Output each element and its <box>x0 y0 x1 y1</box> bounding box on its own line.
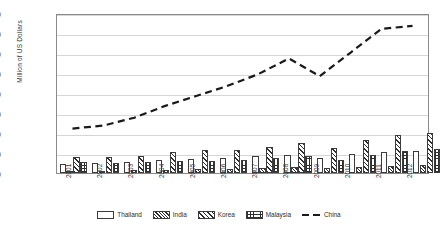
x-tick-cell: 2004 <box>149 176 180 202</box>
x-axis-tick-labels: 2001200220032004200520062007200820092010… <box>56 176 429 202</box>
x-tick-cell: 2003 <box>118 176 149 202</box>
bar-groups <box>57 15 428 173</box>
bar-india <box>259 168 265 173</box>
x-tick-label: 2006 <box>220 164 227 178</box>
y-tick-label: 160,000 <box>0 11 1 18</box>
x-tick-label: 2012 <box>406 164 413 178</box>
bar-group <box>186 15 218 173</box>
x-tick-cell: 2011 <box>367 176 398 202</box>
x-tick-label: 2010 <box>344 164 351 178</box>
y-tick-label: 20,000 <box>0 151 1 158</box>
x-tick-label: 2001 <box>64 164 71 178</box>
x-tick-cell: 2006 <box>211 176 242 202</box>
x-tick-cell: 2012 <box>398 176 429 202</box>
y-tick-label: 100,000 <box>0 71 1 78</box>
bar-korea <box>363 140 369 173</box>
legend-label: Korea <box>218 211 235 218</box>
x-tick-cell: 2005 <box>180 176 211 202</box>
bar-group <box>57 15 89 173</box>
y-tick-label: 60,000 <box>0 111 1 118</box>
bar-india <box>324 168 330 173</box>
bar-group <box>89 15 121 173</box>
bar-malaysia <box>305 156 311 173</box>
legend-item-korea[interactable]: Korea <box>198 211 235 219</box>
bar-malaysia <box>113 163 119 173</box>
y-tick-label: 40,000 <box>0 131 1 138</box>
x-tick-label: 2008 <box>282 164 289 178</box>
x-tick-cell: 2007 <box>242 176 273 202</box>
y-axis-title: Million of US Dollars <box>16 0 23 107</box>
bar-korea <box>138 156 144 173</box>
bar-malaysia <box>145 162 151 173</box>
x-tick-label: 2004 <box>158 164 165 178</box>
y-tick-label: 0 <box>0 171 1 178</box>
x-tick-cell: 2008 <box>274 176 305 202</box>
bar-group <box>282 15 314 173</box>
bar-malaysia <box>338 160 344 174</box>
bar-group <box>411 15 443 173</box>
bar-group <box>218 15 250 173</box>
x-tick-label: 2007 <box>251 164 258 178</box>
bar-malaysia <box>209 161 215 174</box>
x-tick-label: 2005 <box>189 164 196 178</box>
bar-group <box>153 15 185 173</box>
y-tick-label: 140,000 <box>0 31 1 38</box>
legend-item-malaysia[interactable]: Malaysia <box>246 211 291 219</box>
bar-korea <box>106 157 112 173</box>
bar-korea <box>73 157 79 174</box>
legend-swatch-malaysia-icon <box>246 211 263 219</box>
x-tick-label: 2011 <box>375 164 382 178</box>
bar-korea <box>234 150 240 174</box>
bar-malaysia <box>177 161 183 173</box>
bar-india <box>356 167 362 174</box>
bar-india <box>227 169 233 174</box>
legend-swatch-india-icon <box>153 211 170 219</box>
legend-label: Thailand <box>117 211 142 218</box>
chart-legend: ThailandIndiaKoreaMalaysiaChina <box>0 211 438 219</box>
bar-malaysia <box>80 162 86 174</box>
bar-group <box>250 15 282 173</box>
bar-thailand <box>413 151 419 174</box>
bar-group <box>346 15 378 173</box>
x-tick-label: 2003 <box>127 164 134 178</box>
bar-malaysia <box>273 158 279 173</box>
bar-korea <box>170 152 176 173</box>
legend-label: China <box>324 211 341 218</box>
legend-swatch-line-icon <box>302 211 321 219</box>
y-tick-label: 120,000 <box>0 51 1 58</box>
x-tick-cell: 2001 <box>56 176 87 202</box>
bar-group <box>378 15 410 173</box>
bar-korea <box>298 143 304 173</box>
x-tick-label: 2009 <box>313 164 320 178</box>
plot-area <box>56 14 429 174</box>
y-tick-label: 80,000 <box>0 91 1 98</box>
legend-swatch-korea-icon <box>198 211 215 219</box>
bar-india <box>291 167 297 173</box>
bar-korea <box>202 150 208 173</box>
legend-item-thailand[interactable]: Thailand <box>97 211 142 219</box>
bar-malaysia <box>241 160 247 174</box>
legend-label: India <box>173 211 187 218</box>
bar-india <box>388 166 394 173</box>
bar-korea <box>266 147 272 173</box>
bar-korea <box>331 148 337 174</box>
x-tick-cell: 2002 <box>87 176 118 202</box>
bar-india <box>195 169 201 173</box>
bar-group <box>121 15 153 173</box>
legend-item-india[interactable]: India <box>153 211 187 219</box>
bar-korea <box>395 135 401 173</box>
bar-group <box>314 15 346 173</box>
legend-label: Malaysia <box>266 211 291 218</box>
x-tick-label: 2002 <box>96 164 103 178</box>
legend-item-china[interactable]: China <box>302 211 341 219</box>
bar-korea <box>427 133 433 173</box>
bar-malaysia <box>434 149 440 174</box>
bar-india <box>420 165 426 173</box>
x-tick-cell: 2009 <box>305 176 336 202</box>
x-tick-cell: 2010 <box>336 176 367 202</box>
legend-swatch-thailand-icon <box>97 211 114 219</box>
